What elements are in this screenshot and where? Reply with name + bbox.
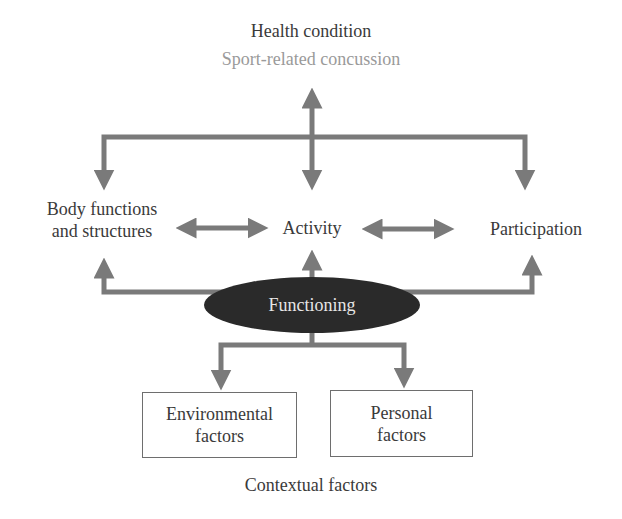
body-functions-line2: and structures [22,220,182,242]
contextual-factors-caption: Contextual factors [211,474,411,496]
personal-line1: Personal [371,402,433,424]
activity-label: Activity [262,217,362,239]
functioning-label: Functioning [212,294,412,316]
diagram-canvas [0,0,622,519]
health-condition-title: Health condition [211,20,411,42]
participation-label: Participation [466,218,606,240]
personal-line2: factors [371,424,433,446]
body-functions-label: Body functions and structures [22,198,182,242]
contextual-branch-line [221,345,404,380]
environmental-factors-box: Environmental factors [142,392,297,458]
health-condition-subtitle: Sport-related concussion [161,48,461,70]
environmental-line2: factors [166,425,273,447]
personal-factors-box: Personal factors [330,390,473,457]
environmental-line1: Environmental [166,403,273,425]
body-functions-line1: Body functions [22,198,182,220]
